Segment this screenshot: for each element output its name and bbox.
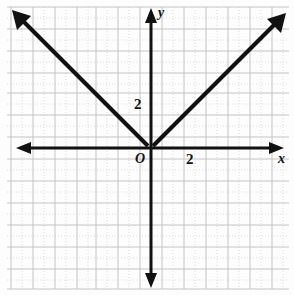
y-axis-label: y [158, 6, 164, 20]
coordinate-plane-canvas [0, 0, 294, 295]
origin-label: O [135, 152, 145, 166]
graph-figure: y x 2 2 O [0, 0, 294, 295]
x-axis-label: x [278, 152, 285, 166]
y-axis-tick-label-2: 2 [134, 97, 142, 112]
x-axis-tick-label-2: 2 [186, 152, 194, 167]
